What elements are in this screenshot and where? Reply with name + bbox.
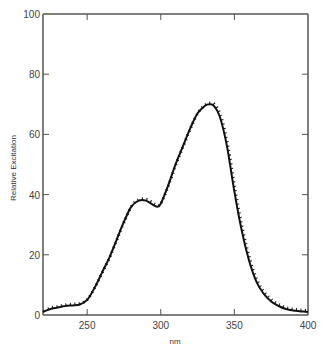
x-tick-label: 400 [300, 320, 317, 331]
y-tick-label: 100 [23, 9, 40, 20]
x-axis-title: nm [169, 337, 180, 346]
excitation-curve [43, 104, 308, 312]
y-tick-label: 20 [29, 250, 41, 261]
y-axis-title: Relative Excitation [9, 135, 18, 201]
y-tick-label: 80 [29, 69, 41, 80]
y-tick-label: 40 [29, 190, 41, 201]
x-tick-label: 300 [152, 320, 169, 331]
x-tick-label: 350 [226, 320, 243, 331]
excitation-chart: 250300350400020406080100 Relative Excita… [0, 0, 325, 352]
tick-labels: 250300350400020406080100 [23, 9, 316, 331]
y-tick-label: 60 [29, 129, 41, 140]
excitation-curve-dotted-overlay [44, 103, 309, 311]
y-tick-label: 0 [34, 310, 40, 321]
x-tick-label: 250 [79, 320, 96, 331]
